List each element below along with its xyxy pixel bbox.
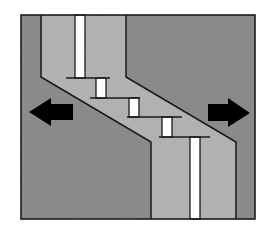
dike-segment xyxy=(162,117,172,137)
dike-segment xyxy=(190,137,200,219)
dike-offset-diagram xyxy=(0,0,273,235)
diagram-canvas xyxy=(0,0,273,235)
dike-segment xyxy=(129,98,139,117)
dike-segment xyxy=(75,15,85,78)
dike-segment xyxy=(96,78,106,98)
